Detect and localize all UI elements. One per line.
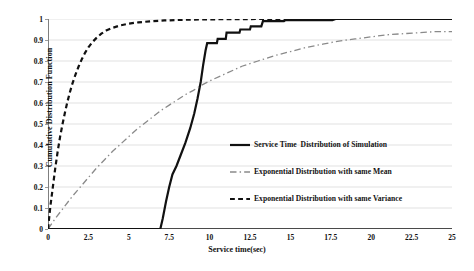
x-tick-label: 7.5 [165,233,174,242]
y-tick-label: 1 [39,15,43,24]
legend-label: Exponential Distribution with same Mean [254,167,392,176]
y-tick-label: 0.1 [34,204,43,213]
x-tick-label: 15 [287,233,295,242]
y-tick-label: 0.2 [34,183,43,192]
legend-item[interactable]: Exponential Distribution with same Mean [229,158,469,185]
y-tick-mark [45,82,48,83]
x-tick-label: 17.5 [324,233,337,242]
x-tick-label: 0 [46,233,50,242]
y-tick-label: 0.7 [34,78,43,87]
legend-item[interactable]: Service Time Distribution of Simulation [229,131,469,158]
x-tick-label: 5 [127,233,131,242]
x-tick-label: 2.5 [84,233,93,242]
legend-swatch-dashdot [229,167,251,177]
y-tick-mark [45,166,48,167]
y-tick-mark [45,145,48,146]
y-tick-mark [45,229,48,230]
y-tick-label: 0 [39,225,43,234]
chart-legend: Service Time Distribution of SimulationE… [229,131,469,212]
y-tick-label: 0.3 [34,162,43,171]
x-tick-label: 10 [206,233,214,242]
y-tick-label: 0.5 [34,120,43,129]
x-tick-label: 25 [448,233,456,242]
y-tick-mark [45,40,48,41]
y-tick-mark [45,124,48,125]
legend-swatch-solid [229,140,251,150]
y-tick-label: 0.8 [34,57,43,66]
x-tick-label: 20 [367,233,375,242]
y-tick-mark [45,187,48,188]
cdf-chart: Cumulative Distribution Function 00.10.2… [0,0,474,271]
y-tick-label: 0.4 [34,141,43,150]
legend-swatch-dashed [229,194,251,204]
x-tick-label: 12.5 [243,233,256,242]
y-tick-mark [45,208,48,209]
legend-label: Service Time Distribution of Simulation [254,140,387,149]
x-axis-title: Service time(sec) [0,245,474,254]
y-axis-title: Cumulative Distribution Function [45,3,54,213]
legend-label: Exponential Distribution with same Varia… [254,194,402,203]
y-tick-mark [45,61,48,62]
y-tick-label: 0.9 [34,36,43,45]
y-tick-label: 0.6 [34,99,43,108]
legend-item[interactable]: Exponential Distribution with same Varia… [229,185,469,212]
y-tick-mark [45,103,48,104]
x-tick-label: 22.5 [405,233,418,242]
y-tick-mark [45,19,48,20]
